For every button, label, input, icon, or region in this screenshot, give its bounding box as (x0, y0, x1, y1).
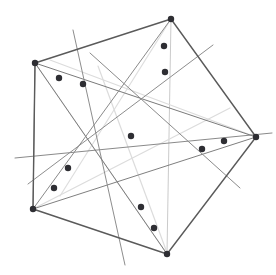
data-point-marker (161, 43, 167, 49)
data-point-marker (168, 16, 174, 22)
data-point-marker (128, 133, 134, 139)
figure-canvas-container (0, 0, 276, 275)
data-point-marker (164, 251, 170, 257)
data-point-marker (32, 60, 38, 66)
data-point-marker (221, 138, 227, 144)
data-point-marker (56, 75, 62, 81)
data-point-marker (151, 225, 157, 231)
data-point-marker (51, 185, 57, 191)
data-point-marker (30, 206, 36, 212)
data-point-marker (199, 146, 205, 152)
data-point-marker (80, 81, 86, 87)
background-rect (0, 0, 276, 275)
data-point-marker (138, 204, 144, 210)
data-point-marker (65, 165, 71, 171)
geometric-line-drawing (0, 0, 276, 275)
data-point-marker (253, 134, 259, 140)
data-point-marker (162, 69, 168, 75)
